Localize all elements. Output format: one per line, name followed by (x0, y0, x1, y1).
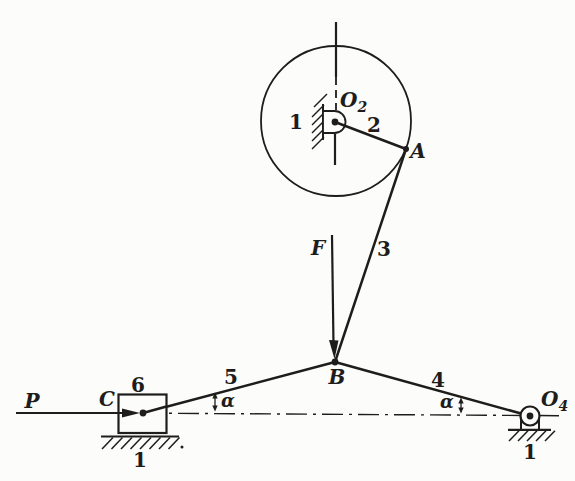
mechanism-diagram: 1 O2 2 A F 3 B 5 4 α α P C 6 1 O4 1 (0, 0, 575, 481)
crank-assembly (261, 22, 411, 196)
force-F-line (332, 235, 334, 345)
force-F-arrow (329, 235, 339, 359)
label-link-2: 2 (367, 113, 381, 137)
label-crank-ground: 1 (289, 110, 303, 134)
angle-marker-right (458, 398, 463, 414)
joint-C-dot (140, 410, 147, 417)
joint-O4-dot (527, 413, 534, 420)
label-joint-B: B (328, 365, 346, 389)
hatch-dot (181, 446, 184, 449)
label-slider-ground: 1 (133, 448, 147, 472)
label-block-6: 6 (131, 373, 145, 397)
label-link-3: 3 (377, 237, 391, 261)
label-force-F: F (310, 236, 327, 260)
link-3-line (335, 149, 406, 362)
label-alpha-right: α (440, 391, 454, 412)
label-force-P: P (23, 389, 40, 413)
label-O4: O4 (541, 387, 568, 414)
label-link-4: 4 (431, 368, 445, 392)
centerline (169, 413, 561, 415)
label-alpha-left: α (221, 390, 235, 411)
label-joint-C: C (99, 387, 115, 411)
label-O2: O2 (340, 88, 367, 115)
label-rocker-ground: 1 (523, 440, 537, 464)
label-joint-A: A (408, 139, 426, 163)
label-link-5: 5 (224, 365, 238, 389)
link-5-line (143, 362, 335, 413)
